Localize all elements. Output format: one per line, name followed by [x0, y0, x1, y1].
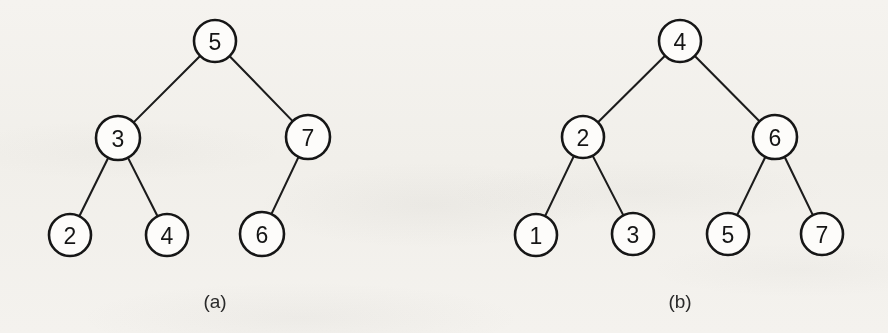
- edges-layer: [79, 55, 813, 216]
- tree-node-4: 4: [146, 214, 188, 256]
- tree-node-label: 5: [209, 29, 222, 55]
- captions-layer: (a)(b): [203, 291, 691, 312]
- tree-node-label: 4: [674, 29, 687, 55]
- tree-edge-5-7: [229, 56, 293, 122]
- tree-edge-2-1: [545, 155, 574, 216]
- tree-edge-3-2: [79, 157, 108, 217]
- tree-edge-2-3: [592, 155, 623, 216]
- tree-node-label: 6: [769, 125, 782, 151]
- figure-binary-trees: 5372464261357 (a)(b): [0, 0, 888, 333]
- tree-node-6: 6: [753, 115, 797, 159]
- tree-node-label: 2: [64, 223, 77, 249]
- tree-edge-4-6: [694, 56, 760, 122]
- tree-edge-3-4: [128, 157, 158, 217]
- tree-node-label: 6: [256, 222, 269, 248]
- tree-node-7: 7: [801, 213, 843, 255]
- tree-node-5: 5: [707, 213, 749, 255]
- panel-caption-b: (b): [668, 291, 691, 312]
- tree-node-3: 3: [612, 213, 654, 255]
- tree-edge-4-2: [597, 55, 665, 122]
- tree-node-label: 3: [112, 126, 125, 152]
- tree-diagram-canvas: 5372464261357 (a)(b): [0, 0, 888, 333]
- tree-node-label: 4: [161, 223, 174, 249]
- tree-node-label: 5: [722, 222, 735, 248]
- tree-node-5: 5: [194, 20, 236, 62]
- tree-edge-7-6: [271, 156, 299, 214]
- tree-node-4: 4: [659, 20, 701, 62]
- tree-node-label: 3: [627, 222, 640, 248]
- tree-node-1: 1: [515, 214, 557, 256]
- tree-edge-6-7: [784, 156, 813, 215]
- tree-node-6: 6: [240, 212, 284, 256]
- tree-node-label: 7: [302, 125, 315, 151]
- tree-edge-5-3: [133, 55, 200, 122]
- tree-node-label: 2: [577, 125, 590, 151]
- nodes-layer: 5372464261357: [49, 20, 843, 256]
- tree-edge-6-5: [737, 156, 766, 215]
- tree-node-7: 7: [286, 115, 330, 159]
- tree-node-label: 7: [816, 222, 829, 248]
- tree-node-label: 1: [530, 223, 543, 249]
- panel-caption-a: (a): [203, 291, 226, 312]
- tree-node-2: 2: [49, 214, 91, 256]
- tree-node-3: 3: [96, 116, 140, 160]
- tree-node-2: 2: [562, 116, 604, 158]
